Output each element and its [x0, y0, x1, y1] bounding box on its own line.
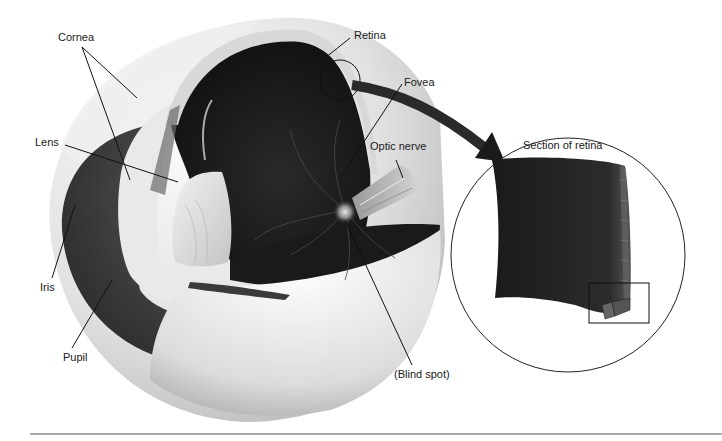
label-iris: Iris [40, 282, 55, 293]
eye-diagram: Cornea Lens Iris Pupil Retina Fovea Opti… [0, 0, 722, 441]
label-pupil: Pupil [63, 352, 87, 363]
label-cornea: Cornea [58, 32, 94, 43]
label-lens: Lens [35, 137, 59, 148]
eye-illustration [0, 0, 722, 441]
label-retina: Retina [354, 30, 386, 41]
label-blind-spot: (Blind spot) [394, 369, 450, 380]
label-section-of-retina: Section of retina [523, 140, 603, 151]
label-optic-nerve: Optic nerve [370, 141, 426, 152]
retina-section [492, 158, 631, 314]
label-fovea: Fovea [404, 77, 435, 88]
